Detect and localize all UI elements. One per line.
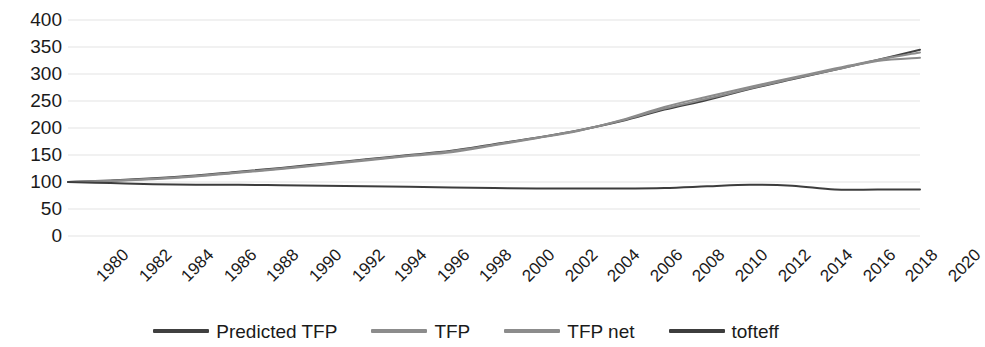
x-axis-tick-label: 1996 <box>434 246 473 285</box>
x-axis-tick-label: 2006 <box>647 246 686 285</box>
chart-legend: Predicted TFPTFPTFP nettofteff <box>0 316 932 346</box>
legend-line-swatch-icon <box>153 329 209 333</box>
y-axis-tick-label: 100 <box>10 172 62 191</box>
y-axis-tick-label: 300 <box>10 64 62 83</box>
legend-line-swatch-icon <box>504 329 560 333</box>
y-axis-tick-label: 50 <box>10 199 62 218</box>
series-lines <box>68 50 920 190</box>
y-axis-tick-label: 150 <box>10 145 62 164</box>
x-axis-tick-label: 1994 <box>391 246 430 285</box>
series-line <box>68 52 920 182</box>
y-axis-tick-label: 250 <box>10 91 62 110</box>
x-axis-tick-label: 2020 <box>945 246 984 285</box>
x-axis-tick-label: 1998 <box>476 246 515 285</box>
x-axis-ticks: 1980198219841986198819901992199419961998… <box>0 240 932 305</box>
x-axis-tick-label: 2008 <box>689 246 728 285</box>
legend-line-swatch-icon <box>669 329 725 333</box>
x-axis-tick-label: 1984 <box>178 246 217 285</box>
x-axis-tick-label: 2010 <box>732 246 771 285</box>
y-axis-tick-label: 350 <box>10 37 62 56</box>
x-axis-tick-label: 2004 <box>604 246 643 285</box>
legend-label: TFP <box>434 322 470 341</box>
x-axis-tick-label: 1986 <box>221 246 260 285</box>
x-axis-tick-label: 2016 <box>860 246 899 285</box>
x-axis-tick-label: 1982 <box>136 246 175 285</box>
x-axis-tick-label: 2002 <box>562 246 601 285</box>
y-axis-tick-label: 400 <box>10 10 62 29</box>
y-axis-tick-label: 200 <box>10 118 62 137</box>
x-axis-tick-label: 1990 <box>306 246 345 285</box>
x-axis-tick-label: 1992 <box>349 246 388 285</box>
x-axis-tick-label: 1988 <box>263 246 302 285</box>
legend-item[interactable]: TFP <box>371 322 470 341</box>
legend-label: TFP net <box>567 322 634 341</box>
legend-label: tofteff <box>732 322 779 341</box>
legend-item[interactable]: tofteff <box>669 322 779 341</box>
x-axis-tick-label: 2000 <box>519 246 558 285</box>
series-line <box>68 58 920 182</box>
y-axis-ticks: 400350300250200150100500 <box>0 0 62 260</box>
legend-item[interactable]: TFP net <box>504 322 634 341</box>
legend-label: Predicted TFP <box>216 322 337 341</box>
legend-line-swatch-icon <box>371 329 427 333</box>
gridlines <box>68 20 920 236</box>
legend-item[interactable]: Predicted TFP <box>153 322 337 341</box>
x-axis-tick-label: 1980 <box>93 246 132 285</box>
x-axis-tick-label: 2014 <box>817 246 856 285</box>
x-axis-tick-label: 2018 <box>902 246 941 285</box>
series-line <box>68 50 920 182</box>
x-axis-tick-label: 2012 <box>775 246 814 285</box>
series-line <box>68 182 920 190</box>
